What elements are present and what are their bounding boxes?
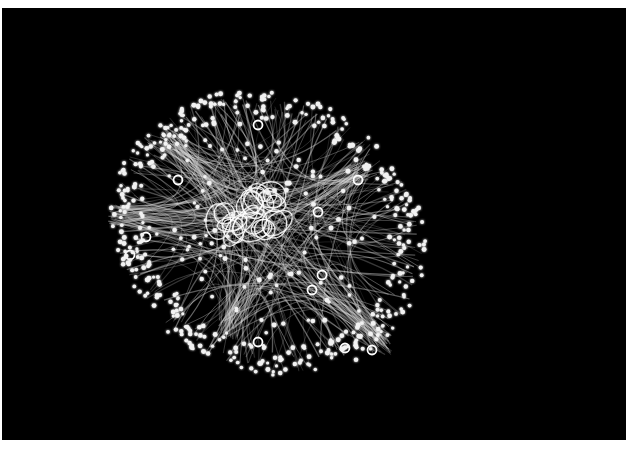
graph-node (390, 198, 393, 201)
graph-node (327, 348, 331, 352)
graph-node (357, 309, 361, 313)
graph-node (210, 295, 214, 299)
graph-node (378, 298, 382, 302)
graph-node (172, 314, 175, 317)
graph-node (198, 333, 203, 338)
graph-node (186, 248, 189, 251)
graph-node (242, 341, 246, 345)
graph-node (408, 198, 412, 202)
graph-node (303, 250, 307, 254)
graph-node (293, 362, 297, 366)
graph-node (393, 173, 396, 176)
graph-node (279, 358, 283, 362)
graph-node (391, 326, 394, 329)
graph-node (398, 280, 401, 283)
graph-node (400, 310, 405, 315)
graph-node (297, 271, 301, 275)
graph-node (179, 329, 183, 333)
graph-node (346, 345, 349, 348)
graph-node (134, 268, 138, 272)
graph-node (402, 228, 405, 231)
graph-node (177, 296, 180, 299)
graph-node (254, 370, 258, 374)
graph-node (368, 331, 373, 336)
graph-node (132, 149, 135, 152)
graph-node (371, 321, 376, 326)
graph-node (422, 242, 426, 246)
graph-node (389, 166, 394, 171)
graph-node (381, 315, 385, 319)
graph-node (191, 103, 196, 108)
graph-node (369, 347, 372, 350)
graph-node (140, 197, 144, 201)
graph-node (262, 346, 266, 350)
graph-node (180, 119, 183, 122)
graph-node (233, 105, 237, 109)
graph-node (336, 217, 341, 222)
graph-node (382, 179, 386, 183)
graph-node (416, 205, 421, 210)
graph-node (394, 189, 398, 193)
graph-node (311, 174, 315, 178)
graph-node (355, 325, 360, 330)
graph-node (178, 112, 182, 116)
graph-node (348, 293, 352, 297)
graph-node (194, 332, 198, 336)
graph-node (406, 265, 409, 268)
graph-node (406, 213, 410, 217)
graph-node (304, 191, 308, 195)
graph-node (178, 134, 183, 139)
graph-node (204, 218, 207, 221)
graph-node (310, 105, 315, 110)
graph-node (162, 133, 166, 137)
graph-node (347, 284, 351, 288)
graph-node (312, 124, 316, 128)
graph-node (319, 281, 323, 285)
graph-node (264, 116, 269, 121)
graph-node (232, 356, 236, 360)
graph-node (352, 239, 356, 243)
graph-node (380, 308, 384, 312)
graph-node (198, 242, 202, 246)
graph-node (153, 141, 157, 145)
graph-node (157, 282, 162, 287)
graph-node (143, 252, 147, 256)
graph-node (336, 337, 341, 342)
graph-node (207, 181, 212, 186)
graph-node (174, 128, 178, 132)
graph-node (374, 144, 379, 149)
graph-node (273, 356, 277, 360)
graph-node (122, 241, 127, 246)
graph-node (264, 331, 268, 335)
network-graph (2, 8, 626, 440)
graph-node (184, 144, 187, 147)
graph-node (377, 188, 381, 192)
graph-node (286, 350, 291, 355)
graph-node (307, 354, 312, 359)
graph-node (417, 243, 421, 247)
graph-node (222, 103, 225, 106)
graph-node (301, 344, 306, 349)
graph-node (187, 245, 191, 249)
graph-node (330, 352, 333, 355)
graph-node (219, 254, 222, 257)
graph-node (201, 189, 205, 193)
graph-node (140, 233, 144, 237)
graph-node (243, 156, 247, 160)
graph-node (120, 223, 124, 227)
graph-node (237, 122, 242, 127)
graph-node (354, 357, 359, 362)
graph-node (406, 240, 410, 244)
graph-node (119, 229, 124, 234)
graph-node (408, 304, 412, 308)
graph-node (331, 117, 335, 121)
graph-node (212, 120, 216, 124)
graph-node (285, 113, 290, 118)
graph-node (386, 280, 391, 285)
graph-node (119, 216, 123, 220)
graph-node (346, 169, 351, 174)
graph-node (150, 160, 154, 164)
graph-node (411, 209, 415, 213)
graph-node (188, 332, 192, 336)
graph-node (225, 331, 228, 334)
